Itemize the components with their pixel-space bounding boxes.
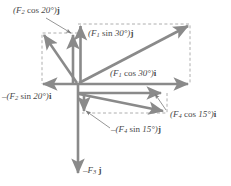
label-f3-j: –F3 j <box>83 166 102 176</box>
label-f4-sin15-j: –(F4 sin 15°)j <box>111 125 161 135</box>
label-f4-cos15-i: (F4 cos 15°)i <box>170 110 216 120</box>
leader-line-f4-cos15 <box>155 94 166 110</box>
vector-f4 <box>79 94 163 111</box>
label-f1-cos30-i: (F1 cos 30°)i <box>110 69 156 79</box>
leader-line-f4-sin15 <box>86 111 110 128</box>
label-f2-sin20-i: –(F2 sin 20°)i <box>2 92 51 102</box>
force-vector-diagram: (F2 cos 20°)j (F1 sin 30°)j (F1 cos 30°)… <box>0 0 231 186</box>
label-f1-sin30-j: (F1 sin 30°)j <box>88 29 133 39</box>
leader-line-f2-cos20 <box>46 18 71 33</box>
label-f2-cos20-j: (F2 cos 20°)j <box>13 6 60 16</box>
